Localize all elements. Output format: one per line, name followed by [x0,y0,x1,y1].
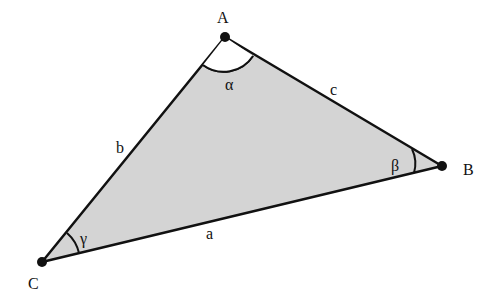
triangle-diagram [0,0,501,298]
vertex-label-c: C [28,276,39,292]
side-label-a: a [206,226,213,242]
vertex-dot-c [37,257,47,267]
angle-label-beta: β [391,158,399,174]
vertex-label-a: A [217,10,229,26]
side-label-c: c [330,82,337,98]
angle-label-gamma: γ [80,231,87,247]
side-label-b: b [116,140,124,156]
vertex-dot-b [437,161,447,171]
vertex-label-b: B [463,162,474,178]
angle-label-alpha: α [225,77,233,93]
vertex-dot-a [220,32,230,42]
triangle-body [42,37,442,262]
